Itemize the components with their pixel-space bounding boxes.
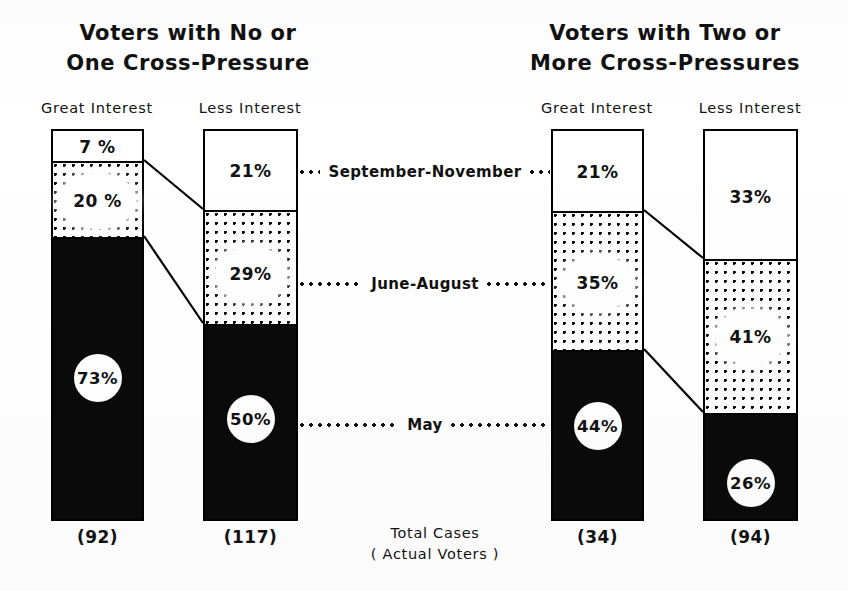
panel-title-left-line2: One Cross-Pressure [28,48,348,78]
bar-1-value-june-august: 20 % [64,179,131,223]
bar-2-value-may: 50% [227,395,275,443]
bar-3-total: (34) [551,527,644,547]
column-header-4: Less Interest [690,100,810,116]
legend-label-may: May [399,416,451,434]
legend-label-june-august: June-August [363,275,487,293]
bar-2-value-september-november: 21% [229,161,271,181]
legend-row-june-august: June-August [300,275,550,293]
column-header-1: Great Interest [37,100,157,116]
legend-leader-right-3 [451,423,550,427]
bar-4-value-june-august: 41% [720,315,780,359]
bar-4-value-may: 26% [727,459,775,507]
panel-title-right: Voters with Two or More Cross-Pressures [500,18,830,78]
connector-bar3-bar4-upper [644,210,703,258]
total-cases-line2: ( Actual Voters ) [330,544,540,565]
bar-column-4[interactable]: 33% 41% 26% [703,129,798,521]
column-header-3: Great Interest [537,100,657,116]
legend-leader-left-1 [300,170,320,174]
bar-column-2[interactable]: 21% 29% 50% [203,129,298,521]
legend-row-september-november: September-November [300,163,550,181]
bar-3-value-june-august: 35% [567,261,627,305]
bar-1-value-september-november: 7 % [79,137,115,157]
bar-3-value-may: 44% [574,402,622,450]
total-cases-caption: Total Cases ( Actual Voters ) [330,523,540,565]
connector-bar1-bar2-lower [144,236,203,323]
panel-title-right-line2: More Cross-Pressures [500,48,830,78]
connector-bar1-bar2-upper [144,160,203,209]
bar-4-value-september-november: 33% [729,187,771,207]
bar-4-total: (94) [703,527,798,547]
bar-1-value-may: 73% [74,354,122,402]
column-header-2: Less Interest [190,100,310,116]
connector-bar3-bar4-lower [644,349,703,412]
total-cases-line1: Total Cases [330,523,540,544]
legend-label-september-november: September-November [320,163,529,181]
bar-2-value-june-august: 29% [220,252,280,296]
legend-row-may: May [300,416,550,434]
panel-title-left-line1: Voters with No or [79,21,296,45]
legend-leader-right-2 [487,282,550,286]
legend-leader-right-1 [530,170,550,174]
legend-leader-left-3 [300,423,399,427]
chart-canvas: Voters with No or One Cross-Pressure Vot… [0,0,848,591]
bar-2-total: (117) [203,527,298,547]
bar-1-total: (92) [51,527,144,547]
legend-leader-left-2 [300,282,363,286]
bar-column-1[interactable]: 7 % 20 % 73% [51,129,144,521]
bar-3-value-september-november: 21% [576,162,618,182]
bar-column-3[interactable]: 21% 35% 44% [551,129,644,521]
panel-title-right-line1: Voters with Two or [549,21,781,45]
panel-title-left: Voters with No or One Cross-Pressure [28,18,348,78]
